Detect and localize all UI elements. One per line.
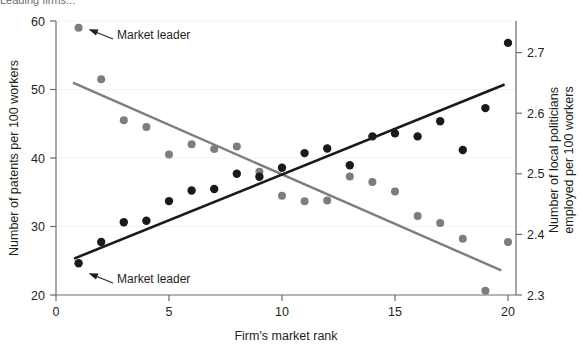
figure: Leading firms... 20 30 40 50 60 — [0, 0, 583, 345]
data-point — [142, 217, 150, 225]
data-point — [97, 238, 105, 246]
y-right-tick-26: 2.6 — [527, 107, 544, 121]
y-axis-left-ticks: 20 30 40 50 60 — [31, 15, 56, 303]
data-point — [391, 129, 399, 137]
data-point — [300, 149, 308, 157]
data-point — [255, 173, 263, 181]
annotation-label-bottom: Market leader — [117, 272, 190, 286]
data-point — [459, 146, 467, 154]
annotation-market-leader-top: Market leader — [89, 28, 191, 42]
data-point — [75, 24, 83, 32]
data-point — [188, 140, 196, 148]
data-point — [481, 287, 489, 295]
y-left-tick-60: 60 — [31, 15, 45, 29]
y-right-tick-24: 2.4 — [527, 228, 544, 242]
x-tick-5: 5 — [166, 305, 173, 319]
data-point — [323, 197, 331, 205]
data-point — [97, 75, 105, 83]
data-point — [233, 170, 241, 178]
data-point — [436, 117, 444, 125]
data-point — [391, 188, 399, 196]
data-point — [368, 178, 376, 186]
data-point — [481, 104, 489, 112]
y-left-tick-20: 20 — [31, 289, 45, 303]
data-point — [165, 197, 173, 205]
data-point — [120, 116, 128, 124]
y-left-tick-50: 50 — [31, 83, 45, 97]
annotation-market-leader-bottom: Market leader — [89, 272, 191, 286]
data-point — [187, 186, 195, 194]
data-point — [436, 219, 444, 227]
data-point — [278, 192, 286, 200]
data-point — [459, 235, 467, 243]
data-point — [142, 123, 150, 131]
data-point — [346, 161, 354, 169]
trendlines — [73, 83, 505, 271]
y-right-tick-25: 2.5 — [527, 167, 544, 181]
data-point — [165, 151, 173, 159]
data-point — [368, 132, 376, 140]
y-axis-right-title-line1: Number of local politicians — [547, 87, 561, 233]
data-point — [233, 142, 241, 150]
y-axis-right-ticks: 2.3 2.4 2.5 2.6 2.7 — [516, 46, 544, 302]
data-point — [210, 145, 218, 153]
series-patents-markers — [75, 24, 512, 295]
x-tick-20: 20 — [501, 305, 515, 319]
data-point — [323, 144, 331, 152]
data-point — [278, 164, 286, 172]
data-point — [346, 173, 354, 181]
x-tick-10: 10 — [275, 305, 289, 319]
data-point — [301, 197, 309, 205]
x-tick-0: 0 — [53, 305, 60, 319]
y-left-tick-30: 30 — [31, 220, 45, 234]
chart-canvas: 20 30 40 50 60 2.3 2.4 2.5 2.6 2.7 0 — [0, 0, 583, 345]
y-axis-right-title-line2: employed per 100 workers — [562, 86, 576, 233]
data-point — [413, 132, 421, 140]
y-left-tick-40: 40 — [31, 152, 45, 166]
data-point — [210, 185, 218, 193]
x-axis-ticks: 0 5 10 15 20 — [53, 295, 515, 319]
data-point — [74, 259, 82, 267]
y-right-tick-27: 2.7 — [527, 46, 544, 60]
y-axis-left-title: Number of patents per 100 workers — [7, 60, 21, 256]
data-point — [504, 238, 512, 246]
data-point — [120, 218, 128, 226]
x-tick-15: 15 — [388, 305, 402, 319]
annotation-label-top: Market leader — [117, 28, 190, 42]
data-point — [504, 39, 512, 47]
x-axis-title: Firm's market rank — [234, 329, 338, 343]
y-right-tick-23: 2.3 — [527, 289, 544, 303]
data-point — [414, 212, 422, 220]
